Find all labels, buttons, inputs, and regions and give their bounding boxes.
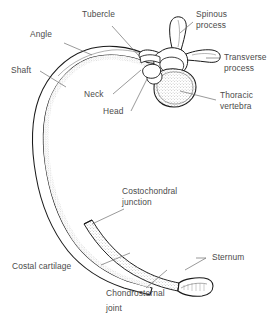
label-chondrosternal-joint-line1: Chondrosternal	[106, 288, 165, 298]
label-thoracic-vertebra-line2: vertebra	[220, 101, 252, 111]
label-spinous-process-line2: process	[196, 20, 226, 30]
sternum-bone	[178, 278, 213, 297]
label-head: Head	[103, 106, 123, 116]
label-transverse-process-line1: Transverse	[224, 52, 267, 62]
label-costochondral-junction-line2: junction	[122, 197, 152, 207]
label-tubercle: Tubercle	[82, 9, 115, 19]
label-spinous-process-line1: Spinous	[196, 9, 227, 19]
thoracic-vertebra	[139, 17, 220, 107]
anatomical-diagram: Tubercle Angle Shaft Neck Head Spinous p…	[0, 0, 276, 324]
leader-costochondral-junction	[92, 209, 124, 224]
leader-sternum-2	[185, 258, 206, 270]
label-transverse-process-line2: process	[224, 63, 254, 73]
label-neck: Neck	[84, 89, 103, 99]
rib-bone	[33, 46, 152, 295]
label-angle: Angle	[30, 29, 52, 39]
label-sternum: Sternum	[212, 252, 244, 262]
leader-head	[131, 79, 147, 111]
label-shaft: Shaft	[11, 65, 31, 75]
spinous-process	[170, 17, 187, 50]
label-costochondral-junction-line1: Costochondral	[122, 186, 177, 196]
transverse-process-right	[184, 50, 220, 63]
rib-head	[143, 64, 161, 78]
label-chondrosternal-joint-line2: joint	[106, 303, 122, 313]
leader-neck	[113, 70, 141, 94]
label-costal-cartilage: Costal cartilage	[12, 261, 71, 271]
label-thoracic-vertebra-line1: Thoracic	[220, 90, 253, 100]
diagram-artwork	[0, 0, 276, 324]
